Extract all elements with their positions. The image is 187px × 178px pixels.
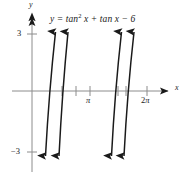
equation-prefix: y = tan: [50, 14, 78, 24]
equation-label: y = tan2 x + tan x − 6: [50, 13, 135, 25]
ytick-label-neg3: −3: [11, 147, 20, 156]
x-axis-label: x: [175, 84, 179, 92]
curve-branch-3: [112, 32, 122, 156]
curve-branch-1: [46, 32, 56, 156]
equation-mid: x + tan x − 6: [82, 14, 136, 24]
ytick-label-3: 3: [17, 29, 21, 38]
plot-canvas: [0, 0, 187, 178]
graph-figure: y = tan2 x + tan x − 6 y x 3 −3 π 2π: [0, 0, 187, 178]
xtick-label-pi: π: [86, 96, 90, 105]
y-axis-label: y: [29, 1, 33, 9]
xtick-label-2pi: 2π: [141, 96, 150, 105]
xtick-2pi-pi: π: [145, 95, 149, 105]
curve-branch-2: [59, 32, 68, 156]
